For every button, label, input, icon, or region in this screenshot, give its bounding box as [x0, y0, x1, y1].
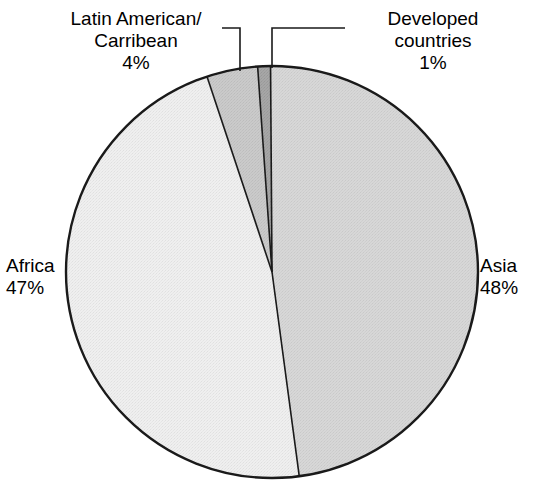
pie-label-developed-line2: countries	[352, 30, 514, 52]
pie-label-asia: Asia 48%	[480, 255, 538, 299]
pie-label-africa-value: 47%	[6, 277, 64, 299]
pie-label-africa: Africa 47%	[6, 255, 64, 299]
pie-label-developed-value: 1%	[352, 52, 514, 74]
pie-label-latin-line1: Latin American/	[52, 8, 220, 30]
pie-label-developed-countries: Developed countries 1%	[352, 8, 514, 74]
pie-chart-graphic	[0, 0, 541, 503]
pie-label-developed-line1: Developed	[352, 8, 514, 30]
pie-chart: Latin American/ Carribean 4% Developed c…	[0, 0, 541, 503]
pie-label-africa-name: Africa	[6, 255, 64, 277]
pie-label-latin-value: 4%	[52, 52, 220, 74]
pie-label-asia-name: Asia	[480, 255, 538, 277]
pie-label-latin-american-carribean: Latin American/ Carribean 4%	[52, 8, 220, 74]
pie-label-asia-value: 48%	[480, 277, 538, 299]
leader-line-developed-countries	[272, 28, 345, 68]
leader-line-latin-american-carribean	[222, 28, 240, 71]
pie-label-latin-line2: Carribean	[52, 30, 220, 52]
